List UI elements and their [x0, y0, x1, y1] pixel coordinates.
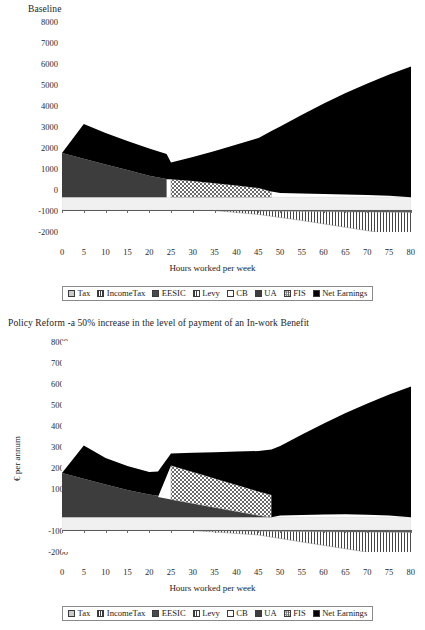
x-tick-mark — [127, 210, 128, 213]
x-tick-label: 70 — [357, 248, 377, 257]
legend-label-incometax: IncomeTax — [107, 289, 146, 298]
x-tick-mark — [236, 210, 237, 213]
legend-item-net-earnings[interactable]: Net Earnings — [313, 609, 368, 618]
y-tick-label: 6000 — [18, 380, 68, 389]
series-incometax — [215, 211, 411, 232]
x-tick-label: 35 — [205, 248, 225, 257]
legend-label-levy: Levy — [202, 609, 220, 618]
legend-item-tax[interactable]: Tax — [68, 289, 90, 298]
x-tick-mark — [324, 530, 325, 533]
x-tick-label: 50 — [270, 568, 290, 577]
x-tick-label: 20 — [139, 248, 159, 257]
legend-swatch-fis-icon — [284, 290, 291, 297]
x-tick-label: 0 — [52, 248, 72, 257]
y-tick-label: 1000 — [18, 485, 68, 494]
legend-label-levy: Levy — [202, 289, 220, 298]
legend-swatch-incometax-icon — [97, 610, 104, 617]
legend-label-eesic: EESIC — [162, 609, 186, 618]
y-tick-label: 6000 — [8, 60, 58, 69]
legend-swatch-fis-icon — [284, 610, 291, 617]
legend-item-ua[interactable]: UA — [255, 609, 277, 618]
x-axis-title-baseline: Hours worked per week — [0, 263, 425, 273]
x-tick-mark — [367, 530, 368, 533]
x-tick-mark — [127, 530, 128, 533]
x-tick-label: 35 — [205, 568, 225, 577]
plot-area-baseline — [62, 21, 411, 232]
legend-swatch-tax-icon — [68, 610, 75, 617]
legend-label-eesic: EESIC — [162, 289, 186, 298]
legend-item-eesic[interactable]: EESIC — [152, 609, 185, 618]
x-tick-label: 75 — [379, 568, 399, 577]
legend-item-fis[interactable]: FIS — [284, 289, 306, 298]
legend-swatch-levy-icon — [193, 610, 200, 617]
legend-item-net-earnings[interactable]: Net Earnings — [313, 289, 368, 298]
x-tick-mark — [62, 210, 63, 213]
legend-item-incometax[interactable]: IncomeTax — [97, 289, 145, 298]
x-tick-mark — [106, 530, 107, 533]
y-tick-label: -1000 — [8, 207, 58, 216]
x-tick-label: 50 — [270, 248, 290, 257]
x-tick-label: 80 — [401, 568, 421, 577]
y-tick-label: 2000 — [8, 144, 58, 153]
legend-item-cb[interactable]: CB — [227, 289, 248, 298]
legend-label-net-earnings: Net Earnings — [322, 289, 367, 298]
x-tick-label: 10 — [96, 568, 116, 577]
legend-policy-reform: Tax IncomeTax EESIC Levy CB UA — [62, 606, 373, 621]
y-tick-label: 4000 — [18, 422, 68, 431]
x-tick-label: 25 — [161, 568, 181, 577]
legend-swatch-cb-icon — [227, 610, 234, 617]
legend-item-cb[interactable]: CB — [227, 609, 248, 618]
x-tick-label: 60 — [314, 248, 334, 257]
x-tick-mark — [280, 530, 281, 533]
legend-label-cb: CB — [236, 289, 247, 298]
y-tick-label: 5000 — [8, 81, 58, 90]
legend-swatch-cb-icon — [227, 290, 234, 297]
x-tick-label: 55 — [292, 568, 312, 577]
legend-item-levy[interactable]: Levy — [193, 289, 220, 298]
legend-label-fis: FIS — [293, 289, 305, 298]
x-tick-label: 70 — [357, 568, 377, 577]
y-tick-label: 5000 — [18, 401, 68, 410]
legend-swatch-net-earnings-icon — [313, 610, 320, 617]
x-tick-mark — [215, 210, 216, 213]
legend-swatch-net-earnings-icon — [313, 290, 320, 297]
legend-swatch-incometax-icon — [97, 290, 104, 297]
y-tick-label: 4000 — [8, 102, 58, 111]
x-tick-label: 65 — [335, 568, 355, 577]
legend-swatch-eesic-icon — [152, 290, 159, 297]
legend-item-eesic[interactable]: EESIC — [152, 289, 185, 298]
y-tick-label: 2000 — [18, 464, 68, 473]
legend-swatch-tax-icon — [68, 290, 75, 297]
x-tick-mark — [84, 530, 85, 533]
legend-label-tax: Tax — [78, 289, 91, 298]
x-tick-mark — [193, 530, 194, 533]
x-tick-label: 45 — [248, 248, 268, 257]
x-tick-mark — [236, 530, 237, 533]
x-tick-label: 30 — [183, 248, 203, 257]
x-tick-mark — [345, 530, 346, 533]
legend-item-incometax[interactable]: IncomeTax — [97, 609, 145, 618]
x-tick-label: 5 — [74, 568, 94, 577]
legend-item-fis[interactable]: FIS — [284, 609, 306, 618]
legend-swatch-ua-icon — [255, 290, 262, 297]
x-tick-mark — [389, 530, 390, 533]
series-cb — [62, 197, 411, 210]
legend-label-cb: CB — [236, 609, 247, 618]
x-tick-mark — [389, 210, 390, 213]
x-tick-label: 15 — [117, 568, 137, 577]
legend-item-tax[interactable]: Tax — [68, 609, 90, 618]
stacked-area-policy-reform — [62, 341, 411, 552]
plot-area-policy-reform — [62, 341, 411, 552]
legend-baseline: Tax IncomeTax EESIC Levy CB UA — [62, 286, 373, 301]
y-tick-label: 8000 — [8, 18, 58, 27]
y-tick-label: 0 — [18, 506, 68, 515]
x-tick-mark — [258, 530, 259, 533]
x-tick-label: 0 — [52, 568, 72, 577]
x-tick-label: 75 — [379, 248, 399, 257]
legend-item-ua[interactable]: UA — [255, 289, 277, 298]
y-tick-label: 1000 — [8, 165, 58, 174]
x-tick-mark — [280, 210, 281, 213]
x-tick-mark — [149, 530, 150, 533]
legend-item-levy[interactable]: Levy — [193, 609, 220, 618]
legend-swatch-eesic-icon — [152, 610, 159, 617]
